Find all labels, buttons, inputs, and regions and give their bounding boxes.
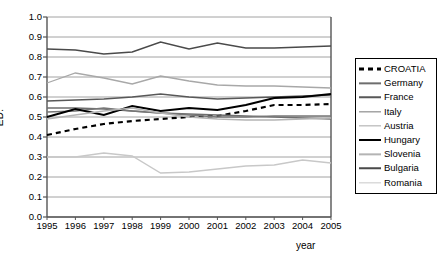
series-line-romania — [47, 153, 331, 173]
legend-item-bulgaria[interactable]: Bulgaria — [359, 161, 433, 175]
legend-item-label: Slovenia — [384, 149, 420, 159]
legend-item-italy[interactable]: Italy — [359, 105, 433, 119]
legend-swatch-icon — [359, 64, 381, 74]
legend-swatch-icon — [359, 121, 381, 131]
legend-item-label: France — [384, 92, 414, 102]
legend-swatch-icon — [359, 92, 381, 102]
legend-swatch-icon — [359, 78, 381, 88]
legend-swatch-icon — [359, 135, 381, 145]
x-tick-label: 2005 — [311, 221, 351, 231]
chart-figure: 0.00.10.20.30.40.50.60.70.80.91.0 199519… — [0, 0, 440, 264]
x-axis-label: year — [296, 240, 315, 251]
legend-swatch-icon — [359, 178, 381, 188]
legend-item-austria[interactable]: Austria — [359, 119, 433, 133]
y-tick-label: 0.8 — [8, 52, 42, 62]
y-tick-label: 1.0 — [8, 12, 42, 22]
y-axis-label: ED. — [0, 109, 5, 127]
legend-item-label: Romania — [384, 178, 422, 188]
y-tick-label: 0.9 — [8, 32, 42, 42]
legend-item-label: CROATIA — [384, 64, 426, 74]
legend-swatch-icon — [359, 107, 381, 117]
legend-item-label: Bulgaria — [384, 163, 419, 173]
legend-swatch-icon — [359, 149, 381, 159]
y-tick-label: 0.7 — [8, 72, 42, 82]
y-tick-label: 0.4 — [8, 132, 42, 142]
legend-item-label: Austria — [384, 121, 414, 131]
chart-legend: CROATIAGermanyFranceItalyAustriaHungaryS… — [355, 58, 437, 194]
legend-item-label: Hungary — [384, 135, 420, 145]
legend-item-slovenia[interactable]: Slovenia — [359, 147, 433, 161]
y-tick-label: 0.3 — [8, 152, 42, 162]
legend-item-croatia[interactable]: CROATIA — [359, 62, 433, 76]
series-line-bulgaria — [47, 42, 331, 54]
series-lines — [47, 42, 331, 173]
legend-item-romania[interactable]: Romania — [359, 176, 433, 190]
legend-item-france[interactable]: France — [359, 90, 433, 104]
y-tick-label: 0.2 — [8, 172, 42, 182]
y-tick-label: 0.6 — [8, 92, 42, 102]
legend-swatch-icon — [359, 163, 381, 173]
x-axis-tick-labels: 1995199619971998199920002001200220032004… — [0, 221, 440, 235]
legend-item-label: Germany — [384, 78, 423, 88]
y-tick-label: 0.1 — [8, 192, 42, 202]
y-tick-label: 0.5 — [8, 112, 42, 122]
legend-item-hungary[interactable]: Hungary — [359, 133, 433, 147]
legend-item-germany[interactable]: Germany — [359, 76, 433, 90]
legend-item-label: Italy — [384, 107, 401, 117]
series-line-austria — [47, 73, 331, 88]
